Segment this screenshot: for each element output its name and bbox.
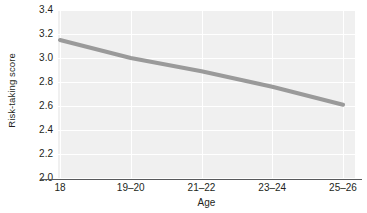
- x-axis-title: Age: [58, 198, 355, 208]
- y-axis-tick-label: 3.2: [39, 29, 53, 39]
- x-axis-tick-label: 25–26: [329, 183, 357, 193]
- x-axis-baseline: [40, 179, 362, 180]
- x-axis-tick-labels: 1819–2021–2223–2425–26: [58, 183, 355, 197]
- plot-panel: [58, 10, 355, 178]
- x-axis-tick-label: 21–22: [188, 183, 216, 193]
- y-axis-tick-label: 2.8: [39, 77, 53, 87]
- risk-taking-score-line: [60, 40, 343, 105]
- chart-figure: Risk-taking score 3.43.23.02.82.62.42.22…: [0, 0, 367, 213]
- y-axis-tick-label: 2.4: [39, 125, 53, 135]
- y-axis-tick-label: 2.0: [39, 173, 53, 183]
- y-axis-tick-label: 2.6: [39, 101, 53, 111]
- y-axis-tick-label: 3.0: [39, 53, 53, 63]
- y-axis-title-text: Risk-taking score: [6, 53, 17, 128]
- y-axis-tick-label: 3.4: [39, 5, 53, 15]
- y-axis-tick-label: 2.2: [39, 149, 53, 159]
- x-axis-tick-label: 18: [54, 183, 65, 193]
- y-axis-title: Risk-taking score: [0, 0, 22, 180]
- data-series-line: [58, 10, 355, 178]
- y-axis-tick-labels: 3.43.23.02.82.62.42.22.0: [22, 10, 56, 178]
- x-axis-tick-label: 19–20: [117, 183, 145, 193]
- x-axis-tick-label: 23–24: [258, 183, 286, 193]
